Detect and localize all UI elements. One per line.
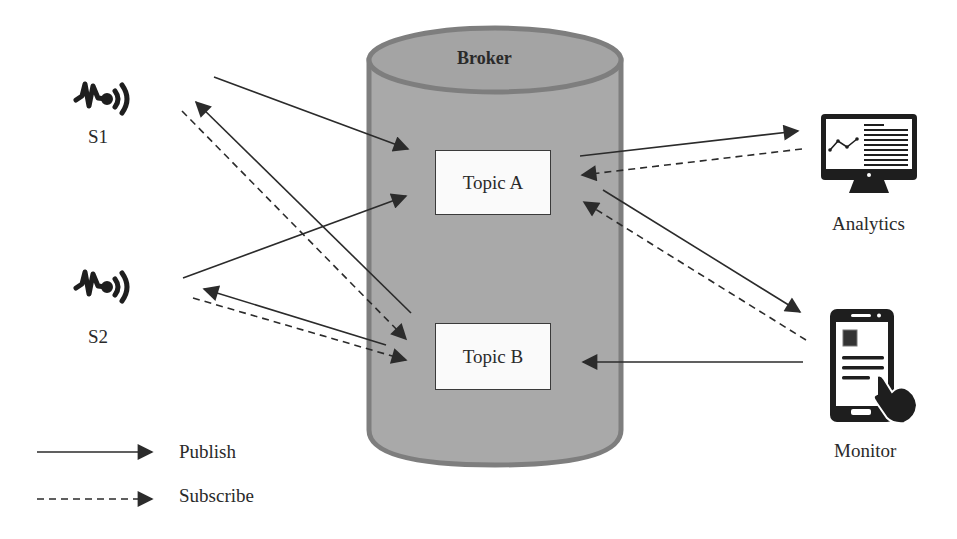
arrow-topic-a-monitor-publish [603, 190, 800, 312]
topic-b-box: Topic B [435, 323, 551, 390]
topic-a-box: Topic A [435, 150, 551, 215]
analytics-label: Analytics [832, 213, 905, 235]
smartphone-touch-icon [830, 309, 917, 423]
s1-label: S1 [88, 126, 108, 148]
broker-title: Broker [457, 48, 512, 69]
topic-b-label: Topic B [463, 346, 523, 368]
s2-label: S2 [88, 326, 108, 348]
pubsub-diagram: Broker Topic A Topic B S1 S2 Analytics M… [0, 0, 957, 539]
legend-subscribe-label: Subscribe [179, 485, 254, 507]
diagram-canvas [0, 0, 957, 539]
topic-a-label: Topic A [463, 172, 523, 194]
sensor-signal-icon [76, 272, 127, 301]
broker-cylinder [369, 28, 621, 465]
sensor-signal-icon [76, 84, 127, 113]
arrow-topic-b-s2-publish [204, 289, 386, 345]
monitor-chart-icon [821, 114, 917, 193]
legend-publish-label: Publish [179, 441, 236, 463]
monitor-label: Monitor [834, 440, 896, 462]
